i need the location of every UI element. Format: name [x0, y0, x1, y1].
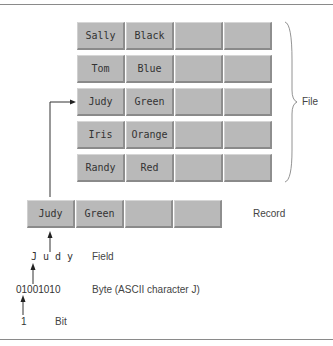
- byte-label: Byte (ASCII character J): [92, 284, 200, 295]
- record-arrow-line: [50, 102, 72, 197]
- arrow-head-icon: [70, 100, 76, 105]
- bit-label: Bit: [55, 316, 67, 327]
- field-label: Field: [92, 251, 114, 262]
- arrow-head-icon: [48, 231, 53, 238]
- arrow-head-icon: [21, 295, 26, 302]
- byte-value: 01001010: [16, 284, 61, 295]
- bit-value: 1: [21, 316, 27, 327]
- arrow-head-icon: [31, 263, 36, 270]
- file-brace-icon: [285, 22, 297, 182]
- field-value: J u d y: [31, 251, 73, 262]
- record-label: Record: [253, 208, 285, 219]
- data-hierarchy-diagram: Sally Black Tom Blue Judy Green Iris Ora…: [0, 0, 333, 346]
- file-label: File: [302, 96, 318, 107]
